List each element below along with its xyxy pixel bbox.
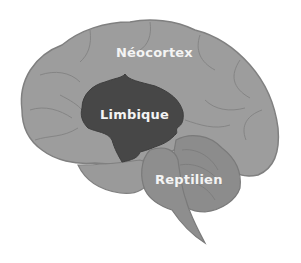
brain-illustration [0,0,301,263]
neocortex-label: Néocortex [116,45,193,60]
brain-diagram: Néocortex Limbique Reptilien [0,0,301,263]
reptilien-label: Reptilien [155,172,223,187]
temporal-lobe [78,160,151,193]
limbique-label: Limbique [100,107,169,122]
